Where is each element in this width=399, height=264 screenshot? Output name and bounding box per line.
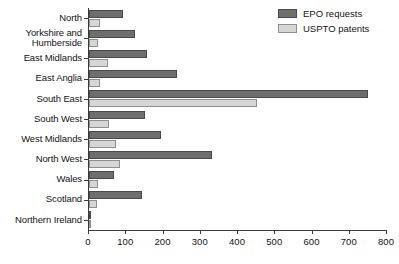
legend-label: EPO requests [303, 8, 362, 19]
y-axis-label: West Midlands [0, 134, 82, 145]
x-axis-tick-label: 500 [254, 236, 294, 247]
bar-uspto-patents [89, 120, 109, 128]
bar-epo-requests [89, 211, 91, 219]
bar-epo-requests [89, 10, 123, 18]
y-axis-tick [84, 220, 88, 221]
y-axis-tick [84, 139, 88, 140]
plot-area: 0100200300400500600700800 [88, 8, 386, 230]
y-axis-label: Scotland [0, 194, 82, 205]
y-axis-label: East Anglia [0, 73, 82, 84]
bar-uspto-patents [89, 180, 98, 188]
y-axis-label: North West [0, 154, 82, 165]
legend-swatch-uspto [278, 24, 297, 33]
legend-item: EPO requests [278, 6, 396, 21]
y-axis-tick [84, 119, 88, 120]
y-axis-label: South East [0, 94, 82, 105]
y-axis-label: Northern Ireland [0, 215, 82, 226]
x-axis-tick [274, 230, 275, 234]
y-axis-label: East Midlands [0, 53, 82, 64]
bar-uspto-patents [89, 79, 100, 87]
x-axis-tick [88, 230, 89, 234]
x-axis-tick-label: 100 [105, 236, 145, 247]
bar-uspto-patents [89, 59, 108, 67]
bar-uspto-patents [89, 19, 100, 27]
legend-item: USPTO patents [278, 21, 396, 36]
y-axis-tick [84, 79, 88, 80]
y-axis-tick [84, 38, 88, 39]
y-axis-label: North [0, 13, 82, 24]
y-axis-label: Yorkshire andHumberside [0, 28, 82, 49]
y-axis-label: South West [0, 114, 82, 125]
y-axis-tick [84, 18, 88, 19]
bar-epo-requests [89, 90, 368, 98]
bar-epo-requests [89, 111, 145, 119]
bar-uspto-patents [89, 99, 257, 107]
bar-uspto-patents [89, 220, 91, 228]
bar-epo-requests [89, 30, 135, 38]
y-axis-category-labels: NorthYorkshire andHumbersideEast Midland… [0, 8, 85, 230]
bar-uspto-patents [89, 160, 120, 168]
x-axis-tick [386, 230, 387, 234]
x-axis-tick [237, 230, 238, 234]
bar-epo-requests [89, 131, 161, 139]
bar-chart: NorthYorkshire andHumbersideEast Midland… [0, 0, 399, 264]
legend-swatch-epo [278, 9, 297, 18]
bar-epo-requests [89, 50, 147, 58]
y-axis-tick [84, 200, 88, 201]
x-axis-tick [200, 230, 201, 234]
x-axis-tick-label: 0 [68, 236, 108, 247]
x-axis-tick [349, 230, 350, 234]
y-axis-label: Wales [0, 174, 82, 185]
bar-epo-requests [89, 171, 114, 179]
bar-epo-requests [89, 191, 142, 199]
x-axis-tick [312, 230, 313, 234]
bar-epo-requests [89, 151, 212, 159]
x-axis-tick-label: 600 [292, 236, 332, 247]
chart-legend: EPO requestsUSPTO patents [278, 6, 396, 36]
x-axis-tick [125, 230, 126, 234]
bar-epo-requests [89, 70, 177, 78]
legend-label: USPTO patents [303, 23, 369, 34]
y-axis-tick [84, 180, 88, 181]
y-axis-tick [84, 159, 88, 160]
x-axis-tick-label: 300 [180, 236, 220, 247]
y-axis-tick [84, 99, 88, 100]
x-axis-tick-label: 800 [366, 236, 399, 247]
y-axis-tick [84, 58, 88, 59]
x-axis-tick [163, 230, 164, 234]
bar-uspto-patents [89, 140, 116, 148]
x-axis-tick-label: 700 [329, 236, 369, 247]
x-axis-tick-label: 200 [143, 236, 183, 247]
bar-uspto-patents [89, 200, 97, 208]
bar-uspto-patents [89, 39, 98, 47]
x-axis-tick-label: 400 [217, 236, 257, 247]
